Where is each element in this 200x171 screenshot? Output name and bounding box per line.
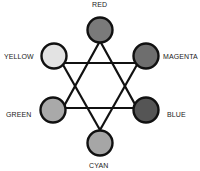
label-red: RED <box>92 1 107 8</box>
node-red <box>88 18 113 43</box>
node-blue <box>134 98 159 123</box>
label-blue: BLUE <box>167 111 186 118</box>
node-magenta <box>134 44 159 69</box>
node-yellow <box>42 44 67 69</box>
edge-magenta-cyan <box>100 63 138 130</box>
node-green <box>41 98 66 123</box>
label-green: GREEN <box>6 111 31 118</box>
label-magenta: MAGENTA <box>163 53 198 60</box>
label-cyan: CYAN <box>89 162 108 169</box>
node-cyan <box>88 131 113 156</box>
label-yellow: YELLOW <box>4 53 34 60</box>
primary-triangle <box>63 41 137 108</box>
edge-yellow-cyan <box>62 63 100 130</box>
color-wheel-diagram <box>0 0 200 171</box>
